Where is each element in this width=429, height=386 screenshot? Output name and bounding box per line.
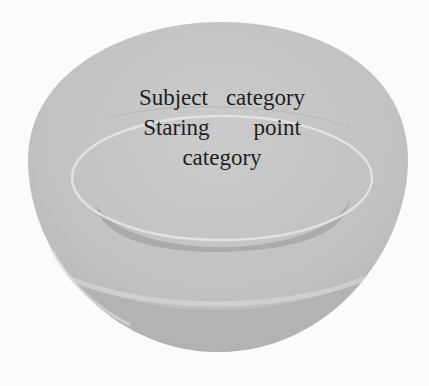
diagram-canvas: Subjectcategory Staringpoint category: [0, 0, 429, 386]
outer-category-label: Subjectcategory: [112, 83, 332, 113]
inner-category-label-line2: category: [112, 143, 332, 173]
bowl-graphic: [0, 0, 429, 386]
inner-category-label-line1: Staringpoint: [112, 113, 332, 143]
category-labels: Subjectcategory Staringpoint category: [112, 83, 332, 173]
